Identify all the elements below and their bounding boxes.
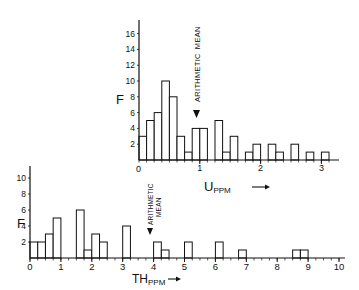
histogram-bar [215,242,223,258]
x-tick-label: 5 [182,261,187,272]
histogram-bar [123,226,131,258]
histogram-bar [92,234,100,258]
histogram-bar [139,136,147,160]
histogram-bar [162,81,170,160]
thorium-y-label: F [17,216,25,231]
histogram-bar [306,152,314,160]
y-tick-label: 8 [21,189,26,199]
x-tick-label: 3 [120,261,125,272]
histogram-bar [45,234,53,258]
y-tick-label: 16 [126,29,136,39]
histogram-bar [291,144,299,160]
thorium-x-ticks: 012345678910 [27,258,344,272]
thorium-x-arrow [168,277,181,282]
histogram-bar [239,250,247,258]
histogram-bar [53,218,61,258]
histogram-bar [185,242,193,258]
x-tick-label: 8 [275,261,280,272]
x-tick-label: 1 [197,163,202,173]
y-tick-label: 2 [130,139,135,149]
x-tick-label: 2 [258,163,263,173]
uranium-histogram: 123 246810121416 F 0 UPPM ARITHMETICMEAN [116,20,339,195]
y-tick-label: 10 [126,76,136,86]
histogram-bar [230,136,238,160]
histogram-bar [200,128,208,160]
histogram-bar [276,152,284,160]
uranium-x-origin: 0 [136,164,141,174]
histogram-bar [177,136,185,160]
x-tick-label: 10 [334,261,345,272]
histogram-bar [293,250,301,258]
x-tick-label: 9 [305,261,310,272]
uranium-y-label: F [116,92,124,107]
histogram-bar [30,242,38,258]
x-tick-label: 3 [319,163,324,173]
histogram-bar [245,152,253,160]
y-tick-label: 6 [130,108,135,118]
y-tick-label: 4 [130,123,135,133]
histogram-bar [154,242,162,258]
histogram-bar [223,152,231,160]
histogram-bar [84,250,92,258]
thorium-x-label: THPPM [132,272,166,287]
y-tick-label: 2 [21,237,26,247]
thorium-histogram: 012345678910 246810 F THPPM ARITHMETIC M… [17,166,345,287]
x-tick-label: 7 [244,261,249,272]
thorium-y-ticks: 246810 [17,173,30,247]
uranium-mean-text: ARITHMETICMEAN [193,26,202,102]
histogram-bar [253,144,261,160]
histogram-bar [169,97,177,160]
histogram-bar [161,250,169,258]
thorium-bars [30,210,308,258]
y-tick-label: 8 [130,92,135,102]
histogram-bar [215,121,223,161]
y-tick-label: 14 [126,44,136,54]
uranium-mean-annotation: ARITHMETICMEAN [193,26,202,118]
histogram-figure: 123 246810121416 F 0 UPPM ARITHMETICMEAN… [0,0,359,290]
histogram-bar [154,113,162,160]
uranium-x-label: UPPM [204,179,231,195]
histogram-bar [38,242,46,258]
down-arrow-icon [193,110,200,118]
histogram-bar [100,242,108,258]
histogram-bar [321,152,329,160]
x-tick-label: 6 [213,261,218,272]
y-tick-label: 6 [21,205,26,215]
histogram-bar [192,128,200,160]
histogram-bar [268,144,276,160]
thorium-mean-text-1: ARITHMETIC [147,183,154,225]
thorium-mean-annotation: ARITHMETIC MEAN [147,183,162,235]
uranium-x-arrow [252,185,270,190]
x-tick-label: 4 [151,261,156,272]
histogram-bar [300,250,308,258]
uranium-bars [139,81,329,160]
x-tick-label: 2 [89,261,94,272]
x-tick-label: 0 [27,261,32,272]
histogram-bar [76,210,84,258]
histogram-bar [185,152,193,160]
y-tick-label: 12 [126,60,136,70]
x-tick-label: 1 [58,261,63,272]
down-arrow-icon [147,228,153,235]
uranium-y-ticks: 246810121416 [126,29,139,150]
y-tick-label: 10 [17,173,27,183]
thorium-mean-text-2: MEAN [155,197,162,217]
histogram-bar [147,121,155,161]
uranium-x-ticks: 123 [139,160,329,173]
